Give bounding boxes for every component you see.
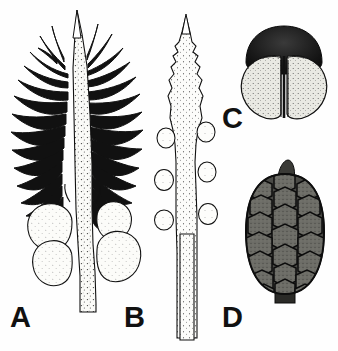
panel-b-apex [182, 14, 190, 34]
botanical-figure: A [0, 0, 338, 351]
panel-d-svg [234, 158, 336, 318]
panel-c-illustration [232, 22, 336, 130]
panel-d-illustration [234, 158, 336, 318]
panel-a-svg [2, 4, 148, 314]
panel-d-scales [246, 172, 324, 306]
panel-label-a: A [10, 303, 31, 332]
panel-c-svg [232, 22, 336, 130]
panel-label-d: D [222, 303, 243, 332]
panel-label-c: C [222, 104, 243, 133]
panel-a-illustration [2, 4, 148, 314]
panel-label-b: B [124, 303, 145, 332]
panel-b-svg [140, 12, 232, 342]
panel-b-illustration [140, 12, 232, 342]
panel-b-stalk [180, 234, 194, 340]
